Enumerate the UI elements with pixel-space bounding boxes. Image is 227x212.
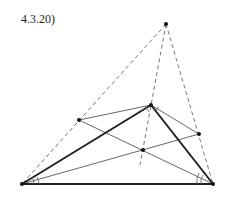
point-B: [149, 103, 153, 107]
point-O: [141, 148, 145, 152]
triangle-ABC: [22, 105, 213, 184]
dashed-apex-to-C: [166, 24, 213, 184]
angle-marks: [32, 107, 203, 184]
point-apex: [164, 22, 168, 26]
point-C: [211, 182, 215, 186]
point-R: [197, 132, 201, 136]
line-Q-C: [79, 120, 213, 184]
points: [20, 22, 215, 186]
dashed-apex-through-B: [140, 24, 166, 165]
dashed-lines: [22, 24, 213, 184]
point-Q: [77, 118, 81, 122]
angle-mark-C2: [197, 173, 199, 184]
line-R-A: [22, 134, 199, 184]
point-A: [20, 182, 24, 186]
angle-mark-A2: [37, 177, 39, 184]
dashed-apex-to-A: [22, 24, 166, 184]
geometry-diagram: [0, 0, 227, 212]
thin-lines: [22, 105, 213, 184]
line-B-R: [151, 105, 199, 134]
side-AB: [22, 105, 151, 184]
